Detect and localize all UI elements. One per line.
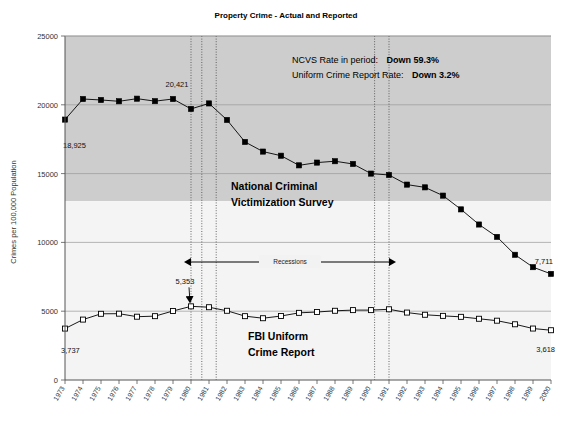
property-crime-chart: Property Crime - Actual and Reported Cri… <box>0 0 572 424</box>
plot-area-background <box>65 36 551 380</box>
series-label-ucr-line1: FBI Uniform <box>248 330 308 342</box>
x-tick-label: 1990 <box>358 385 372 402</box>
series-label-ncvs-line1: National Criminal <box>231 180 317 192</box>
y-axis-ticks: 0500010000150002000025000 <box>37 32 65 385</box>
data-point-marker <box>476 222 481 227</box>
data-point-marker <box>260 149 265 154</box>
data-point-marker <box>477 316 482 321</box>
x-tick-label: 1987 <box>304 385 318 402</box>
ncvs-rate-label: NCVS Rate in period: <box>292 55 378 65</box>
series-label-ncvs-line2: Victimization Survey <box>231 196 334 208</box>
data-point-marker <box>459 314 464 319</box>
x-tick-label: 1999 <box>520 385 534 402</box>
point-value-label: 3,618 <box>536 345 555 354</box>
y-tick-label: 0 <box>54 376 58 385</box>
data-point-marker <box>278 153 283 158</box>
x-tick-label: 1991 <box>376 385 390 402</box>
x-tick-label: 1976 <box>106 385 120 402</box>
data-point-marker <box>440 193 445 198</box>
x-tick-label: 1995 <box>448 385 462 402</box>
x-tick-label: 1978 <box>142 385 156 402</box>
data-point-marker <box>422 185 427 190</box>
data-point-marker <box>333 308 338 313</box>
data-point-marker <box>386 172 391 177</box>
x-tick-label: 1989 <box>340 385 354 402</box>
data-point-marker <box>495 318 500 323</box>
x-tick-label: 1997 <box>484 385 498 402</box>
ucr-rate-value: Down 3.2% <box>412 70 460 80</box>
x-tick-label: 1983 <box>232 385 246 402</box>
ncvs-rate-value: Down 59.3% <box>387 55 440 65</box>
data-point-marker <box>296 163 301 168</box>
x-tick-label: 1984 <box>250 385 264 402</box>
data-point-marker <box>297 310 302 315</box>
data-point-marker <box>405 310 410 315</box>
data-point-marker <box>549 328 554 333</box>
data-point-marker <box>279 314 284 319</box>
data-point-marker <box>423 312 428 317</box>
x-tick-label: 1988 <box>322 385 336 402</box>
data-point-marker <box>494 234 499 239</box>
recessions-label: Recessions <box>273 258 307 265</box>
data-point-marker <box>98 97 103 102</box>
data-point-marker <box>242 139 247 144</box>
data-point-marker <box>189 304 194 309</box>
point-value-label: 3,737 <box>61 346 80 355</box>
x-tick-label: 1982 <box>214 385 228 402</box>
data-point-marker <box>314 160 319 165</box>
data-point-marker <box>332 159 337 164</box>
y-tick-label: 10000 <box>37 238 58 247</box>
data-point-marker <box>368 171 373 176</box>
data-point-marker <box>207 305 212 310</box>
data-point-marker <box>441 313 446 318</box>
data-point-marker <box>99 311 104 316</box>
x-tick-label: 1981 <box>196 385 210 402</box>
x-tick-label: 1985 <box>268 385 282 402</box>
x-tick-label: 1993 <box>412 385 426 402</box>
x-tick-label: 1979 <box>160 385 174 402</box>
data-point-marker <box>135 314 140 319</box>
x-tick-label: 1998 <box>502 385 516 402</box>
data-point-marker <box>458 207 463 212</box>
data-point-marker <box>171 308 176 313</box>
data-point-marker <box>512 252 517 257</box>
data-point-marker <box>116 99 121 104</box>
data-point-marker <box>351 308 356 313</box>
data-point-marker <box>369 308 374 313</box>
data-point-marker <box>404 182 409 187</box>
x-tick-label: 1986 <box>286 385 300 402</box>
x-tick-label: 1975 <box>88 385 102 402</box>
data-point-marker <box>170 96 175 101</box>
data-point-marker <box>548 271 553 276</box>
chart-title: Property Crime - Actual and Reported <box>215 11 358 20</box>
x-tick-label: 1980 <box>178 385 192 402</box>
data-point-marker <box>153 314 158 319</box>
data-point-marker <box>134 96 139 101</box>
data-point-marker <box>152 99 157 104</box>
data-point-marker <box>81 317 86 322</box>
x-axis-ticks: 1973197419751976197719781979198019811982… <box>52 380 552 402</box>
x-tick-label: 1992 <box>394 385 408 402</box>
point-value-label: 18,925 <box>63 141 86 150</box>
data-point-marker <box>513 322 518 327</box>
series-label-ucr-line2: Crime Report <box>248 346 315 358</box>
data-point-marker <box>206 101 211 106</box>
data-point-marker <box>243 314 248 319</box>
data-point-marker <box>315 310 320 315</box>
data-point-marker <box>350 161 355 166</box>
x-tick-label: 1996 <box>466 385 480 402</box>
data-point-marker <box>387 307 392 312</box>
data-point-marker <box>531 326 536 331</box>
ucr-rate-label: Uniform Crime Report Rate: <box>292 70 404 80</box>
x-tick-label: 1977 <box>124 385 138 402</box>
x-tick-label: 2000 <box>538 385 552 402</box>
x-tick-label: 1974 <box>70 385 84 402</box>
x-tick-label: 1973 <box>52 385 66 402</box>
point-value-label: 5,353 <box>176 277 195 286</box>
chart-svg: Property Crime - Actual and Reported Cri… <box>0 0 572 424</box>
x-tick-label: 1994 <box>430 385 444 402</box>
point-value-label: 7,711 <box>535 257 553 266</box>
y-tick-label: 5000 <box>41 307 58 316</box>
point-value-label: 20,421 <box>166 80 189 89</box>
data-point-marker <box>225 308 230 313</box>
